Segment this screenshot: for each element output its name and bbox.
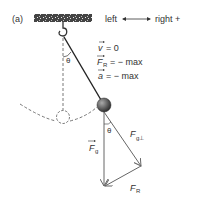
restoring-force-label: F R xyxy=(130,183,141,194)
perpendicular-force-label: F g⊥ xyxy=(130,129,144,141)
arrow-left-icon xyxy=(122,17,126,21)
pendulum-bob xyxy=(97,98,111,112)
svg-text:= − max: = − max xyxy=(110,57,143,67)
svg-text:= − max: = − max xyxy=(106,71,139,81)
gravity-force-label: F g xyxy=(88,140,98,154)
hook-icon xyxy=(59,22,67,36)
condition-acceleration: a = − max xyxy=(98,69,139,81)
svg-text:g⊥: g⊥ xyxy=(136,135,144,141)
svg-text:R: R xyxy=(103,62,108,68)
condition-restoring-force: F R = − max xyxy=(97,55,143,68)
restoring-force-vector xyxy=(105,166,141,186)
svg-text:R: R xyxy=(136,188,141,194)
left-label: left xyxy=(105,14,118,24)
conditions-list: v = 0 F R = − max a = − max xyxy=(97,41,143,81)
panel-label: (a) xyxy=(12,14,23,24)
pendulum-string xyxy=(64,37,101,100)
svg-text:v: v xyxy=(98,43,103,53)
angle-arc-bob xyxy=(104,122,111,124)
svg-text:g: g xyxy=(95,148,98,154)
pendulum-diagram: (a) left right + θ v = 0 F R = − xyxy=(0,0,198,202)
ceiling-support xyxy=(34,14,92,22)
condition-velocity: v = 0 xyxy=(98,41,119,53)
direction-indicator: left right + xyxy=(105,14,180,24)
angle-label-top: θ xyxy=(66,56,71,65)
svg-text:a: a xyxy=(98,71,103,81)
equilibrium-position xyxy=(57,111,70,124)
arrow-right-icon xyxy=(147,17,151,21)
swing-arc-left xyxy=(20,104,56,121)
swing-arc-right xyxy=(70,107,97,121)
angle-label-bob: θ xyxy=(107,126,112,135)
svg-text:= 0: = 0 xyxy=(106,43,119,53)
right-label: right + xyxy=(155,14,180,24)
